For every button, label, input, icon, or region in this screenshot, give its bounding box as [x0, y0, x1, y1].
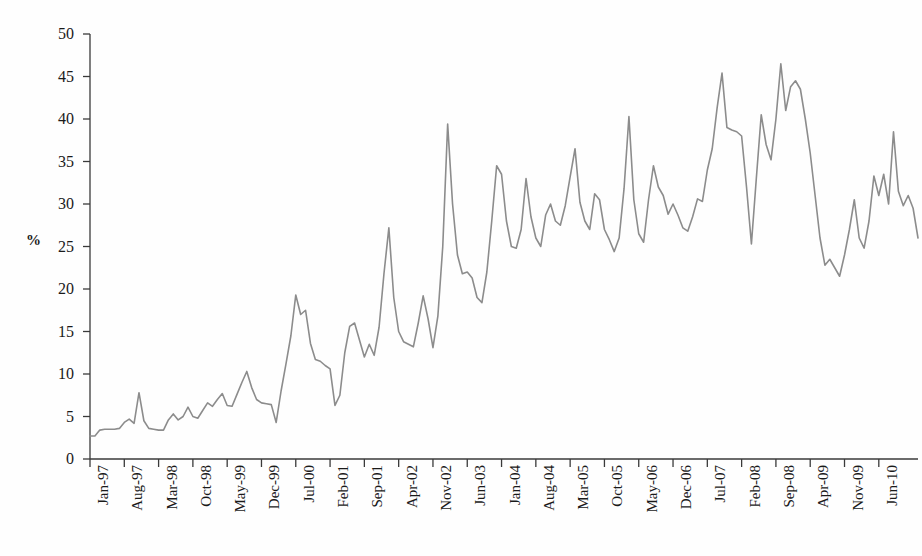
x-axis-tick-label: Dec-06 [679, 465, 694, 509]
y-axis-tick-labels: 05101520253035404550 [40, 0, 74, 556]
x-axis-tick-label: Nov-02 [439, 465, 454, 511]
x-axis-tick-label: Oct-98 [199, 465, 214, 507]
y-axis-tick-label: 0 [40, 451, 74, 467]
y-axis-tick-label: 40 [40, 111, 74, 127]
y-axis-tick-label: 45 [40, 69, 74, 85]
y-axis-tick-label: 35 [40, 154, 74, 170]
y-axis-tick-label: 10 [40, 366, 74, 382]
y-axis-tick-label: 20 [40, 281, 74, 297]
x-axis-tick-label: Feb-08 [748, 465, 763, 508]
x-axis-tick-label: Feb-01 [336, 465, 351, 508]
x-axis-tick-label: Jun-03 [473, 465, 488, 506]
x-axis-tick-label: Apr-09 [816, 465, 831, 508]
y-axis-title: % [26, 232, 41, 249]
plot-area [90, 20, 918, 459]
x-axis-tick-label: Jan-04 [508, 465, 523, 505]
data-line-series-percentage [90, 64, 918, 436]
x-axis-tick-labels: Jan-97Aug-97Mar-98Oct-98May-99Dec-99Jul-… [90, 465, 918, 555]
x-axis-tick-label: Jan-97 [96, 465, 111, 505]
y-axis-tick-label: 25 [40, 239, 74, 255]
x-axis-tick-label: Nov-09 [851, 465, 866, 511]
x-axis-tick-label: May-99 [233, 465, 248, 513]
x-axis-tick-label: Aug-04 [542, 465, 557, 511]
axes-group [83, 34, 918, 467]
x-axis-tick-label: Oct-05 [610, 465, 625, 507]
y-axis-tick-label: 30 [40, 196, 74, 212]
x-axis-tick-label: Jul-00 [302, 465, 317, 503]
x-axis-tick-label: Aug-97 [130, 465, 145, 511]
x-axis-tick-label: Mar-05 [576, 465, 591, 510]
x-axis-tick-label: Sep-01 [370, 465, 385, 508]
x-axis-tick-label: Apr-02 [405, 465, 420, 508]
y-axis-tick-label: 15 [40, 324, 74, 340]
chart-svg [90, 20, 918, 459]
x-axis-tick-label: Dec-99 [267, 465, 282, 509]
x-axis-tick-label: Jul-07 [713, 465, 728, 503]
x-axis-tick-label: Mar-98 [165, 465, 180, 510]
x-axis-tick-label: May-06 [645, 465, 660, 513]
line-chart: % 05101520253035404550 Jan-97Aug-97Mar-9… [0, 0, 922, 556]
x-axis-tick-label: Jun-10 [885, 465, 900, 506]
y-axis-tick-label: 50 [40, 26, 74, 42]
x-axis-tick-label: Sep-08 [782, 465, 797, 508]
y-axis-tick-label: 5 [40, 409, 74, 425]
